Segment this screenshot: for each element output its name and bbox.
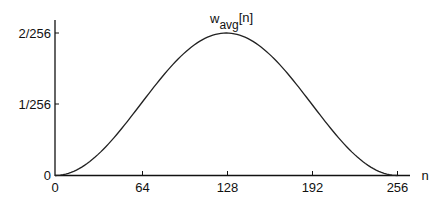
x-tick-label: 192 xyxy=(302,180,324,195)
title-suffix: [n] xyxy=(239,10,253,25)
x-axis-label: n xyxy=(421,168,428,183)
data-line xyxy=(55,33,398,176)
title-subscript: avg xyxy=(219,18,238,32)
y-tick-label: 0 xyxy=(44,168,51,183)
x-tick-label: 0 xyxy=(51,180,58,195)
x-tick-label: 256 xyxy=(387,180,409,195)
x-tick-label: 64 xyxy=(135,180,149,195)
chart-title: wavg[n] xyxy=(209,10,253,32)
title-main: w xyxy=(209,11,220,26)
y-tick-label: 1/256 xyxy=(18,97,51,112)
chart: 2/256 1/256 0 0 64 128 192 256 n wavg[n] xyxy=(0,0,443,203)
x-tick-label: 128 xyxy=(217,180,239,195)
y-tick-label: 2/256 xyxy=(18,26,51,41)
